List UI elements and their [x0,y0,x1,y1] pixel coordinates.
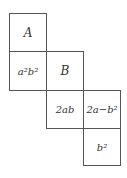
cell-2ab: 2ab [46,90,84,129]
cell-a2b2: a²b² [9,51,47,91]
cell-b2: b² [83,128,121,166]
cell-b2-label: b² [97,142,107,153]
cell-2ab-label: 2ab [56,104,75,115]
cell-2a-minus-b2: 2a−b² [83,90,121,129]
cell-a: A [9,13,47,52]
cell-2a-minus-b2-label: 2a−b² [86,104,117,115]
cell-b: B [46,51,84,91]
cell-a-label: A [24,26,33,40]
cell-b-label: B [61,64,70,78]
cell-a2b2-label: a²b² [18,66,38,77]
